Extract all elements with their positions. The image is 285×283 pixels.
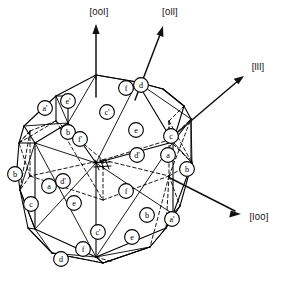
- node-text: f: [82, 245, 85, 254]
- node-label: d: [134, 78, 149, 93]
- node-text: e': [65, 97, 71, 106]
- node-text: c: [169, 132, 173, 141]
- axis-100-label: [l00]: [250, 211, 269, 222]
- node-text: b: [13, 170, 17, 179]
- node-label: e': [61, 94, 76, 109]
- axis-001: [00l]: [90, 6, 109, 98]
- direction-axes: [00l] [0ll] [lll] [l00]: [90, 6, 269, 222]
- node-label: d: [54, 252, 69, 267]
- figure-canvas: [00l] [0ll] [lll] [l00]: [0, 0, 285, 283]
- node-text: c': [104, 108, 110, 117]
- crystal-direction-figure: [00l] [0ll] [lll] [l00]: [0, 0, 285, 283]
- node-text: a': [169, 215, 175, 224]
- node-text: a': [42, 104, 48, 113]
- node-label: e: [67, 196, 82, 211]
- node-text: e: [130, 233, 134, 242]
- node-text: a: [166, 151, 170, 160]
- node-text: e: [72, 199, 76, 208]
- node-label: a': [38, 101, 53, 116]
- node-text: d': [60, 177, 66, 186]
- node-label: c: [164, 129, 179, 144]
- node-label: a: [42, 179, 57, 194]
- node-label: f': [73, 132, 88, 147]
- axis-011-label: [0ll]: [162, 6, 178, 17]
- axis-100: [l00]: [170, 178, 268, 222]
- node-label: d': [130, 148, 145, 163]
- node-label: f: [119, 81, 134, 96]
- node-text: f: [125, 84, 128, 93]
- axis-111: [lll]: [172, 61, 264, 138]
- node-text: b: [145, 211, 149, 220]
- node-label: b: [8, 167, 23, 182]
- node-label: c': [91, 225, 106, 240]
- node-label: e: [129, 123, 144, 138]
- node-text: c: [29, 200, 33, 209]
- node-label: a': [165, 212, 180, 227]
- node-labels: a' e' c' f d b: [8, 78, 195, 267]
- node-label: d': [56, 174, 71, 189]
- node-label: e: [125, 230, 140, 245]
- node-label: c: [24, 197, 39, 212]
- node-text: b: [66, 128, 70, 137]
- node-label: c': [100, 105, 115, 120]
- node-label: f: [119, 184, 134, 199]
- node-text: d: [139, 81, 143, 90]
- node-label: b: [140, 208, 155, 223]
- axis-001-label: [00l]: [90, 6, 109, 17]
- node-text: f: [125, 187, 128, 196]
- node-text: d: [59, 255, 63, 264]
- node-text: a: [47, 182, 51, 191]
- axis-111-label: [lll]: [252, 61, 265, 72]
- node-label: a: [161, 148, 176, 163]
- node-text: e: [134, 126, 138, 135]
- node-text: d': [134, 151, 140, 160]
- node-text: c': [95, 228, 101, 237]
- node-text: b: [185, 165, 189, 174]
- node-text: f': [78, 135, 83, 144]
- node-label: b: [180, 162, 195, 177]
- node-label: f: [76, 242, 91, 257]
